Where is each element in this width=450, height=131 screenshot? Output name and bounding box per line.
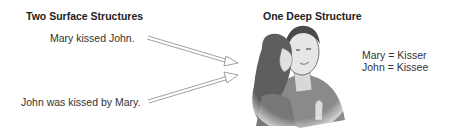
arrows-and-illustration [0, 0, 450, 131]
arrow-bottom-icon [148, 72, 238, 103]
diagram: Two Surface Structures Mary kissed John.… [0, 0, 450, 131]
kiss-illustration [242, 22, 354, 131]
arrow-top-icon [147, 36, 238, 66]
